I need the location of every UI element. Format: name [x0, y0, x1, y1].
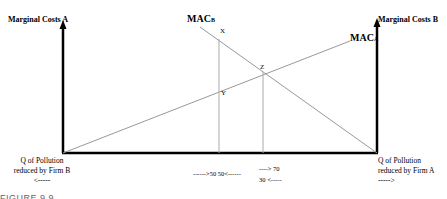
right-quantity-label: Q of Pollution reduced by Firm A ----->: [378, 156, 434, 186]
mac-a-subscript: A: [374, 36, 378, 42]
left-quantity-line2: reduced by Firm B: [12, 166, 72, 176]
left-quantity-line1: Q of Pollution: [12, 156, 72, 166]
tick-70-label: ----> 70: [259, 164, 279, 174]
mac-b-label-text: MAC: [187, 13, 211, 24]
point-x-label: X: [220, 26, 225, 36]
left-quantity-arrow: <-----: [12, 176, 72, 186]
right-quantity-line2: reduced by Firm A: [378, 166, 434, 176]
tick-50-label: ------>50 50<------: [193, 169, 241, 179]
mac-a-curve: [63, 41, 350, 153]
tick-30-label: 30 <-----: [259, 175, 282, 185]
right-quantity-arrow: ----->: [378, 176, 434, 186]
right-axis-label: Marginal Costs B: [378, 15, 438, 25]
left-quantity-label: Q of Pollution reduced by Firm B <-----: [12, 156, 72, 186]
figure-caption: FIGURE 9.9: [0, 193, 54, 199]
point-y-label: Y: [221, 88, 226, 98]
mac-b-label: MACB: [187, 14, 215, 25]
right-quantity-line1: Q of Pollution: [378, 156, 434, 166]
left-axis-label: Marginal Costs A: [8, 15, 68, 25]
mac-a-label-text: MAC: [350, 32, 374, 43]
mac-b-curve: [200, 27, 377, 153]
mac-b-subscript: B: [211, 17, 215, 23]
point-z-label: Z: [260, 62, 264, 72]
mac-a-label: MACA: [350, 33, 378, 44]
